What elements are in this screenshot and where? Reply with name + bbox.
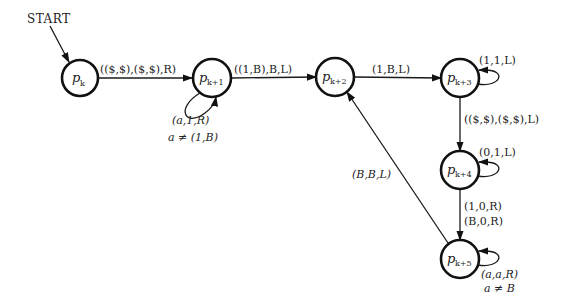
edge-pk5-self-loop: (a,a,R) a ≠ B bbox=[478, 251, 518, 295]
start-label: START bbox=[27, 12, 71, 26]
state-node-pk4: p k+4 bbox=[441, 151, 479, 189]
edge-label: (1,1,L) bbox=[479, 54, 516, 67]
node-subscript: k+2 bbox=[330, 77, 347, 86]
edge-label: (1,B,L) bbox=[372, 63, 410, 76]
edge-pk5-to-pk2: (B,B,L) bbox=[347, 92, 448, 243]
edge-label-secondary: (B,0,R) bbox=[464, 215, 503, 228]
edge-label: (B,B,L) bbox=[352, 168, 391, 181]
node-subscript: k bbox=[80, 79, 85, 88]
node-subscript: k+4 bbox=[455, 170, 472, 179]
edge-pk4-self-loop: (0,1,L) bbox=[478, 146, 516, 177]
edge-pk1-to-pk2: ((1,B),B,L) bbox=[231, 63, 316, 78]
edge-label: (a,1,R) bbox=[172, 114, 209, 127]
node-subscript: k+3 bbox=[455, 78, 472, 87]
edge-pk3-self-loop: (1,1,L) bbox=[478, 54, 516, 85]
state-node-pk: p k bbox=[62, 60, 98, 96]
edge-label: (($,$),($,$),R) bbox=[100, 63, 176, 76]
state-diagram: START (($,$),($,$),R) (a,1,R) a ≠ (1,B) … bbox=[0, 0, 569, 307]
edge-condition: a ≠ (1,B) bbox=[168, 131, 218, 144]
edge-pk1-self-loop: (a,1,R) a ≠ (1,B) bbox=[168, 93, 218, 144]
node-subscript: k+5 bbox=[455, 259, 472, 268]
edge-label: (($,$),($,$),L) bbox=[464, 113, 539, 126]
node-subscript: k+1 bbox=[207, 78, 224, 87]
state-node-pk3: p k+3 bbox=[441, 59, 479, 97]
edge-label: (1,0,R) bbox=[464, 200, 502, 213]
edge-pk-to-pk1: (($,$),($,$),R) bbox=[98, 63, 192, 78]
edge-pk4-to-pk5: (1,0,R) (B,0,R) bbox=[460, 189, 503, 240]
edge-label: ((1,B),B,L) bbox=[234, 63, 292, 76]
start-arrow bbox=[50, 26, 69, 62]
edge-label: (0,1,L) bbox=[479, 146, 516, 159]
edge-pk3-to-pk4: (($,$),($,$),L) bbox=[460, 97, 539, 151]
edge-pk2-to-pk3: (1,B,L) bbox=[354, 63, 441, 78]
edge-condition: a ≠ B bbox=[484, 282, 515, 295]
state-node-pk2: p k+2 bbox=[316, 58, 354, 96]
state-node-pk5: p k+5 bbox=[441, 240, 479, 278]
edge-label: (a,a,R) bbox=[481, 268, 518, 281]
state-node-pk1: p k+1 bbox=[193, 59, 231, 97]
